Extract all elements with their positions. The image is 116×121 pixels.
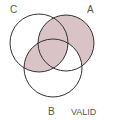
label-a: A bbox=[87, 4, 94, 15]
venn-diagram: C A B VALID bbox=[0, 0, 116, 121]
verdict-label: VALID bbox=[71, 107, 97, 117]
label-c: C bbox=[10, 4, 17, 15]
label-b: B bbox=[48, 106, 55, 117]
